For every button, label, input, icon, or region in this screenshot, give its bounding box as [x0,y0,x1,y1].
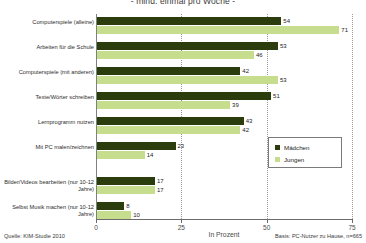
bar-jungen [97,186,155,194]
legend-label-jungen: Jungen [284,156,304,163]
grid-line [352,14,354,219]
bar-value-label: 42 [242,126,249,134]
chart-subtitle: - mind. einmal pro Woche - [0,0,366,6]
bar-maedchen [97,67,240,75]
category-label: Computerspiele (mit anderen) [2,69,94,76]
bar-jungen [97,151,145,159]
category-axis-labels: Computerspiele (alleine)Arbeiten für die… [0,14,94,219]
bar-maedchen [97,177,155,185]
category-label: Bilder/Videos bearbeiten (nur 10-12 Jahr… [2,179,94,193]
bar-maedchen [97,17,281,25]
bar-jungen [97,101,230,109]
plot-area: 02550755471534642535139434223141717810 [96,14,352,219]
bar-value-label: 53 [280,42,287,50]
category-label: Computerspiele (alleine) [2,19,94,26]
legend-item-maedchen: Mädchen [275,144,309,151]
category-label: Lernprogramm nutzen [2,119,94,126]
bar-value-label: 14 [147,151,154,159]
bar-maedchen [97,142,176,150]
legend-swatch-maedchen [275,145,280,150]
bar-jungen [97,211,131,219]
bar-value-label: 54 [283,17,290,25]
legend-swatch-jungen [275,157,280,162]
bar-value-label: 17 [157,177,164,185]
footer-source: Quelle: KIM-Studie 2010 [4,233,65,239]
chart-title-block: - mind. einmal pro Woche - [0,0,366,6]
bar-value-label: 10 [133,211,140,219]
footer-basis: Basis: PC-Nutzer zu Hause, n=665 [275,233,362,239]
bar-value-label: 53 [280,76,287,84]
category-label: Texte/Wörter schreiben [2,94,94,101]
bar-maedchen [97,92,271,100]
bar-value-label: 23 [178,142,185,150]
legend-label-maedchen: Mädchen [284,144,309,151]
category-label: Mit PC malen/zeichnen [2,144,94,151]
category-label: Selbst Musik machen (nur 10-12 Jahre) [2,204,94,218]
bar-value-label: 51 [273,92,280,100]
bar-value-label: 8 [126,202,129,210]
bar-maedchen [97,202,124,210]
bar-value-label: 71 [341,26,348,34]
bar-value-label: 46 [256,51,263,59]
category-label: Arbeiten für die Schule [2,44,94,51]
x-axis-tick-label: 0 [94,224,98,231]
bar-jungen [97,26,339,34]
x-axis-tick-label: 50 [263,224,270,231]
bar-value-label: 39 [232,101,239,109]
bar-value-label: 43 [246,117,253,125]
bar-value-label: 17 [157,186,164,194]
legend-item-jungen: Jungen [275,156,304,163]
x-axis-tick [181,219,182,223]
x-axis-tick [96,219,97,223]
chart-container: - mind. einmal pro Woche - Computerspiel… [0,0,366,243]
x-axis-tick-label: 75 [348,224,355,231]
chart-legend: Mädchen Jungen [268,137,342,168]
bar-maedchen [97,117,244,125]
bar-jungen [97,51,254,59]
bar-jungen [97,76,278,84]
bar-value-label: 42 [242,67,249,75]
bar-maedchen [97,42,278,50]
x-axis-tick-label: 25 [178,224,185,231]
x-axis-tick [267,219,268,223]
bar-jungen [97,126,240,134]
x-axis-line [96,219,352,220]
x-axis-tick [352,219,353,223]
